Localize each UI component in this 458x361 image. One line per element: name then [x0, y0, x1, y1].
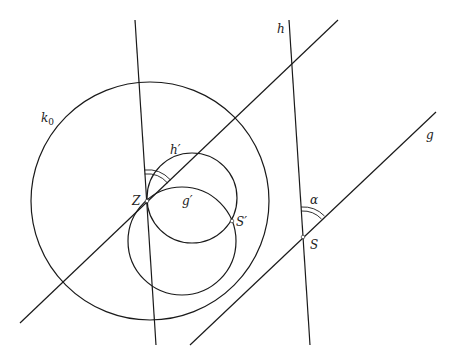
- angle-arc-z-outer: [144, 170, 170, 180]
- angle-arc-z-inner: [145, 174, 168, 183]
- point-s: [301, 235, 305, 239]
- point-s-prime: [230, 219, 234, 223]
- line-through-z-vertical: [135, 20, 156, 345]
- label-s-prime: S′: [236, 215, 247, 229]
- line-g: [190, 112, 436, 345]
- label-s: S: [310, 238, 318, 252]
- geometry-diagram: k0 h′ g′ Z S′ α S h g: [0, 0, 458, 361]
- line-h: [289, 20, 310, 345]
- label-h: h: [277, 22, 285, 36]
- label-z: Z: [131, 194, 141, 208]
- label-g: g: [426, 128, 434, 142]
- label-alpha: α: [310, 193, 318, 207]
- angle-arc-s-inner: [301, 211, 321, 219]
- label-g-prime: g′: [182, 194, 193, 208]
- point-z: [145, 199, 149, 203]
- label-h-prime: h′: [170, 143, 181, 157]
- label-k0: k0: [41, 111, 54, 127]
- line-through-z-diagonal: [20, 20, 338, 323]
- angle-arc-s-outer: [301, 207, 325, 216]
